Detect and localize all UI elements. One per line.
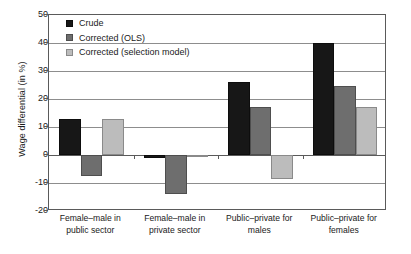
legend-swatch-icon-crude	[66, 20, 73, 27]
legend-swatch-icon-selection	[66, 49, 73, 56]
x-axis-label-line1: Female–male in	[144, 213, 205, 223]
legend-label-ols: Corrected (OLS)	[79, 33, 145, 43]
x-tick-mark-1	[134, 155, 135, 159]
x-tick-mark-3	[303, 155, 304, 159]
chart-legend: Crude Corrected (OLS) Corrected (selecti…	[66, 16, 236, 60]
x-axis-label-line2: private sector	[133, 225, 218, 237]
bar-crude-group-1	[59, 119, 81, 155]
legend-item-ols: Corrected (OLS)	[66, 31, 236, 46]
x-axis-label-1: Female–male inpublic sector	[48, 213, 133, 236]
bar-crude-group-4	[313, 43, 335, 155]
legend-item-selection: Corrected (selection model)	[66, 45, 236, 60]
bar-ols-group-4	[334, 86, 356, 155]
x-axis-label-line2: males	[217, 225, 302, 237]
x-axis-label-line1: Public–private for	[226, 213, 292, 223]
bar-selection-group-2	[187, 155, 209, 157]
x-axis-label-2: Female–male inprivate sector	[133, 213, 218, 236]
bar-selection-group-4	[356, 107, 378, 155]
legend-swatch-icon-ols	[66, 34, 73, 41]
x-axis-label-line2: public sector	[48, 225, 133, 237]
bar-ols-group-3	[250, 107, 272, 155]
bar-crude-group-3	[228, 82, 250, 155]
x-axis-label-line1: Public–private for	[311, 213, 377, 223]
legend-label-crude: Crude	[79, 18, 104, 28]
x-axis-label-4: Public–private forfemales	[302, 213, 387, 236]
x-axis-label-line2: females	[302, 225, 387, 237]
y-tick-mark--20	[44, 210, 48, 211]
x-axis-label-3: Public–private formales	[217, 213, 302, 236]
x-axis-labels: Female–male inpublic sectorFemale–male i…	[48, 213, 386, 247]
bar-chart: Wage differential (in %) 50403020100-10-…	[0, 0, 411, 254]
x-tick-mark-2	[218, 155, 219, 159]
y-axis-ticks: 50403020100-10-20	[0, 14, 48, 210]
legend-label-selection: Corrected (selection model)	[79, 47, 190, 57]
bar-ols-group-2	[165, 155, 187, 194]
legend-item-crude: Crude	[66, 16, 236, 31]
x-axis-label-line1: Female–male in	[60, 213, 121, 223]
bar-selection-group-1	[102, 119, 124, 155]
bar-selection-group-3	[271, 155, 293, 179]
bar-crude-group-2	[144, 155, 166, 158]
bar-ols-group-1	[81, 155, 103, 176]
